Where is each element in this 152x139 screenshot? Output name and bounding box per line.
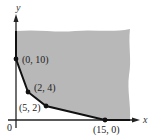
- vertex-label-0-10: (0, 10): [22, 54, 49, 66]
- vertex-label-5-2: (5, 2): [19, 102, 41, 114]
- vertex-label-15-0: (15, 0): [93, 124, 120, 136]
- feasible-region-diagram: y x 0 (0, 10) (2, 4) (5, 2) (15, 0): [0, 0, 152, 139]
- x-axis-label: x: [142, 114, 148, 125]
- x-axis-arrow-icon: [132, 118, 140, 123]
- y-axis-arrow-icon: [14, 14, 19, 22]
- origin-label: 0: [7, 122, 12, 133]
- vertex-15-0: [103, 118, 108, 123]
- vertex-0-10: [14, 57, 19, 62]
- vertex-5-2: [44, 104, 49, 109]
- vertex-label-2-4: (2, 4): [34, 82, 56, 94]
- y-axis-label: y: [15, 2, 21, 13]
- vertex-2-4: [26, 90, 31, 95]
